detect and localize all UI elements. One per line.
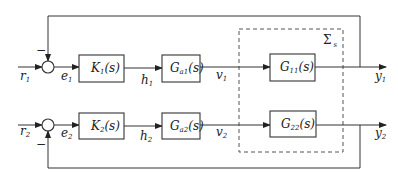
minus-sign-2: − xyxy=(36,137,46,151)
e1-label: e1 xyxy=(61,69,73,84)
h2-label: h2 xyxy=(140,129,153,144)
h1-label: h1 xyxy=(141,73,153,88)
controller-k1-label: K1(s) xyxy=(90,61,120,76)
e2-label: e2 xyxy=(61,126,73,141)
v1-label: v1 xyxy=(216,68,227,83)
v2-label: v2 xyxy=(216,125,228,140)
y2-label: y2 xyxy=(374,126,387,141)
loop-2: r2 − e2 K2(s) h2 Ga2(s) v2 G22(s) y2 xyxy=(18,111,387,168)
summing-junction-1 xyxy=(42,61,54,73)
subsystem-label: Σs xyxy=(323,33,337,49)
minus-sign-1: − xyxy=(36,43,46,57)
summing-junction-2 xyxy=(42,119,54,131)
r1-label: r1 xyxy=(20,69,30,84)
block-diagram: Σs r1 − e1 K1(s) h1 Ga1(s) v1 G11(s) y1 xyxy=(0,0,398,183)
loop-1: r1 − e1 K1(s) h1 Ga1(s) v1 G11(s) y1 xyxy=(18,16,386,88)
y1-label: y1 xyxy=(374,69,386,84)
r2-label: r2 xyxy=(20,124,31,139)
controller-k2-label: K2(s) xyxy=(90,119,120,134)
